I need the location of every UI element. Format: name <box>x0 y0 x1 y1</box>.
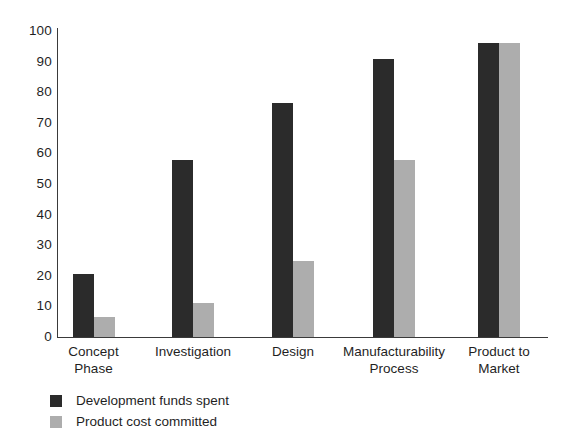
legend-label: Development funds spent <box>76 394 229 408</box>
bar-product-cost-committed <box>499 43 520 337</box>
y-axis-tick-label: 60 <box>6 146 52 160</box>
bar-product-cost-committed <box>193 303 214 337</box>
bar-group <box>73 31 115 337</box>
y-axis-tick-label: 10 <box>6 299 52 313</box>
x-axis-line <box>57 337 548 338</box>
legend-swatch-icon <box>50 395 62 407</box>
bar-development-funds-spent <box>478 43 499 337</box>
legend-label: Product cost committed <box>76 415 217 429</box>
chart-legend: Development funds spentProduct cost comm… <box>50 390 229 432</box>
bar-product-cost-committed <box>293 261 314 338</box>
y-axis-tick-label: 100 <box>6 24 52 38</box>
bar-group <box>272 31 314 337</box>
legend-swatch-icon <box>50 416 62 428</box>
bar-group <box>373 31 415 337</box>
legend-item: Development funds spent <box>50 390 229 411</box>
bar-group <box>478 31 520 337</box>
y-axis-tick-label: 90 <box>6 55 52 69</box>
y-axis-tick-label: 70 <box>6 116 52 130</box>
bar-group <box>172 31 214 337</box>
x-axis-category-label: Product to Market <box>424 344 570 377</box>
y-axis-tick-label: 0 <box>6 330 52 344</box>
y-axis-tick-label: 40 <box>6 208 52 222</box>
y-axis-tick-label: 50 <box>6 177 52 191</box>
y-axis-tick-label: 80 <box>6 85 52 99</box>
y-axis-tick-label: 20 <box>6 269 52 283</box>
y-axis-tick-label: 30 <box>6 238 52 252</box>
bar-development-funds-spent <box>272 103 293 337</box>
bar-product-cost-committed <box>94 317 115 337</box>
bar-chart: 0102030405060708090100 Development funds… <box>0 0 570 442</box>
bar-development-funds-spent <box>172 160 193 337</box>
bar-development-funds-spent <box>73 274 94 337</box>
bar-product-cost-committed <box>394 160 415 337</box>
plot-area <box>58 31 548 337</box>
legend-item: Product cost committed <box>50 411 229 432</box>
bar-development-funds-spent <box>373 59 394 337</box>
